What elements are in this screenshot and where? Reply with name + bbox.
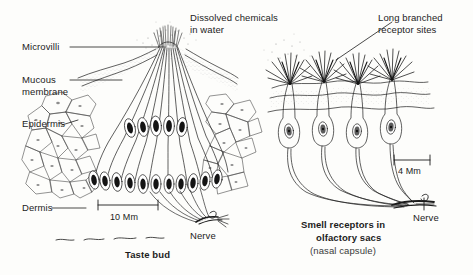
scale-label-right: 4 Mm <box>398 166 421 178</box>
epidermis-cells-right <box>202 94 262 194</box>
cilia-tuft <box>368 49 414 80</box>
nerve-bundle-right <box>392 194 436 210</box>
dermis-boundary <box>56 237 164 240</box>
label-nerve-left: Nerve <box>190 230 216 242</box>
basal-cells <box>87 169 223 194</box>
label-long-branched-line2: receptor sites <box>378 24 436 36</box>
odour-molecules-stipple <box>264 34 311 65</box>
scale-bar-right <box>394 155 430 165</box>
caption-taste-bud: Taste bud <box>125 249 170 261</box>
caption-smell-line2: olfactory sacs <box>316 232 381 244</box>
label-epidermis: Epidermis <box>22 118 65 130</box>
taste-bud-group <box>22 22 262 241</box>
dissolved-chemicals-stipple <box>137 22 197 49</box>
scale-label-left: 10 Mm <box>110 212 138 224</box>
label-nerve-right: Nerve <box>413 212 439 224</box>
cilia-tuft <box>334 53 380 84</box>
diagram-canvas <box>0 0 473 275</box>
olfactory-group <box>264 22 436 210</box>
scale-bar-left <box>98 200 158 210</box>
cilia-tuft <box>300 51 346 82</box>
figure-root: Microvilli Mucous membrane Epidermis Der… <box>0 0 473 275</box>
label-mucous-membrane-line2: membrane <box>22 86 68 98</box>
caption-smell-line1: Smell receptors in <box>301 219 385 231</box>
label-dissolved-chemicals-line2: in water <box>190 24 224 36</box>
label-microvilli: Microvilli <box>22 41 59 53</box>
label-dermis: Dermis <box>22 202 53 214</box>
olfactory-axons <box>288 144 414 207</box>
epidermis-cells-left <box>22 92 100 198</box>
nerve-bundle-left <box>196 211 229 227</box>
microvilli-tuft <box>154 25 182 47</box>
cilia-tuft <box>266 53 312 84</box>
mucous-membrane-band <box>80 46 238 93</box>
label-long-branched-line1: Long branched <box>378 12 443 24</box>
caption-smell-subtitle: (nasal capsule) <box>310 245 376 257</box>
label-mucous-membrane-line1: Mucous <box>22 74 56 86</box>
label-dissolved-chemicals-line1: Dissolved chemicals <box>190 12 278 24</box>
epidermis-nuclei-left <box>30 102 85 191</box>
